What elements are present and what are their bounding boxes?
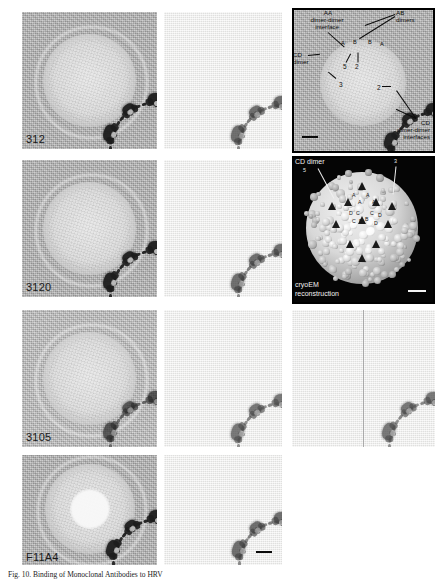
cryoem-cd-dimer-label: CD dimer xyxy=(295,158,325,165)
panel-3120-central-section: 3120 xyxy=(22,160,157,297)
subunit-label-A-right: A xyxy=(380,41,384,47)
subunit-label-A-left: A xyxy=(341,40,345,46)
row-label-3120: 3120 xyxy=(26,281,51,293)
panel-split-line xyxy=(363,310,364,447)
cryoem-subunit-label: A xyxy=(358,199,361,205)
capsid-shell-diff-F11A4 xyxy=(164,455,282,565)
label-ab-dimers-line2: dimers xyxy=(396,17,415,24)
capsid-shell-diff-3120 xyxy=(164,160,282,297)
cryoem-capsomer-knob xyxy=(333,276,338,281)
cryoem-subunit-label: C xyxy=(356,210,360,216)
cryoem-subunit-label: C xyxy=(352,218,356,224)
cryoem-capsomer-knob xyxy=(374,277,382,285)
cryoem-capsomer-knob xyxy=(332,184,339,191)
panel-F11A4-difference-map xyxy=(164,455,282,565)
cryoem-capsomer-knob xyxy=(378,248,385,255)
panel-F11A4-central-section: F11A4 xyxy=(22,455,157,565)
row-label-312: 312 xyxy=(26,133,45,145)
cryoem-capsomer-knob xyxy=(410,216,415,221)
cryoem-axis-5-label: 5 xyxy=(303,167,306,173)
panel-312-central-section: 312 xyxy=(22,12,157,149)
capsid-shell-3105 xyxy=(22,310,157,447)
cryoem-capsomer-knob xyxy=(404,201,409,206)
cryoem-capsomer-knob xyxy=(316,217,321,222)
leader-axis-2-right xyxy=(382,86,391,87)
axis-label-2-fold-top: 2 xyxy=(355,63,359,70)
cryoem-capsomer-knob xyxy=(354,241,360,247)
cryoem-subunit-label: A xyxy=(372,199,375,205)
cryoem-capsomer-knob xyxy=(365,247,372,254)
subunit-label-B-left: B xyxy=(353,39,357,45)
cryoem-capsomer-knob xyxy=(407,232,413,238)
capsid-shell-312 xyxy=(22,12,157,149)
cryoem-capsomer-knob xyxy=(413,235,420,242)
label-cd-dimer-dimer-interfaces-line3: interfaces xyxy=(370,134,430,141)
cryoem-capsomer-knob xyxy=(323,248,330,255)
cryoem-capsomer-knob xyxy=(316,192,320,196)
cryoem-subunit-label: C xyxy=(370,210,374,216)
cryoem-subunit-label: D xyxy=(378,212,382,218)
cryoem-three-fold-canyon xyxy=(388,202,396,210)
cryoem-title-line2: reconstruction xyxy=(295,290,339,297)
label-cd-dimer-line2: dimer xyxy=(293,59,308,66)
cryoem-subunit-label: B xyxy=(365,216,368,222)
panel-3105-difference-map-right xyxy=(292,310,435,447)
cryoem-capsomer-knob xyxy=(315,211,319,215)
cryoem-three-fold-canyon xyxy=(358,182,366,190)
capsid-shell-F11A4 xyxy=(22,455,157,565)
cryoem-capsomer-knob xyxy=(390,254,397,261)
cryoem-capsomer-knob xyxy=(401,227,408,234)
cryoem-capsomer-knob xyxy=(337,175,342,180)
cryoem-subunit-label: A xyxy=(366,192,369,198)
cryoem-capsomer-knob xyxy=(345,268,352,275)
cryoem-capsomer-knob xyxy=(315,236,321,242)
cryoem-three-fold-canyon xyxy=(358,254,366,262)
cryoem-subunit-label: A xyxy=(352,192,355,198)
figure-root: 312 AA dimer-dimer interface AB dimers C… xyxy=(0,0,436,585)
row-label-F11A4: F11A4 xyxy=(26,551,59,563)
cryoem-capsomer-knob xyxy=(389,271,396,278)
cryoem-three-fold-canyon xyxy=(384,220,392,228)
cryoem-subunit-label: B xyxy=(359,218,362,224)
axis-label-3-fold: 3 xyxy=(339,81,343,88)
cryoem-capsomer-knob xyxy=(346,247,354,255)
panel-3105-central-section: 3105 xyxy=(22,310,157,447)
cryoem-capsomer-knob xyxy=(339,248,344,253)
figure-caption: Fig. 10. Binding of Mono­clonal Antibodi… xyxy=(8,570,428,579)
cryoem-capsomer-knob xyxy=(377,257,382,262)
cryoem-title-line1: cryoEM xyxy=(295,281,319,288)
cryoem-axis-3-label: 3 xyxy=(394,158,397,164)
cryoem-three-fold-canyon xyxy=(372,240,380,248)
cryoem-three-fold-canyon xyxy=(344,198,352,206)
cryoem-capsomer-knob xyxy=(407,258,411,262)
capsid-shell-diff-3105 xyxy=(164,310,282,447)
cryoem-capsomer-knob xyxy=(341,212,349,220)
cryoem-capsomer-knob xyxy=(324,230,330,236)
scale-bar-bottom xyxy=(256,551,272,553)
panel-3120-difference-map xyxy=(164,160,282,297)
scale-bar-annotated xyxy=(302,136,318,138)
label-aa-dimer-dimer-interface-line3: interface xyxy=(298,24,356,31)
cryoem-capsomer-knob xyxy=(366,227,375,236)
cryoem-subunit-label: D xyxy=(374,220,378,226)
cryoem-capsomer-knob xyxy=(365,169,372,176)
cryoem-capsomer-knob xyxy=(362,280,369,287)
cryoem-three-fold-canyon xyxy=(332,220,340,228)
capsid-shell-3120 xyxy=(22,160,157,297)
subunit-label-B-right: B xyxy=(368,39,372,45)
cryoem-capsomer-knob xyxy=(332,244,337,249)
cryoem-capsomer-knob xyxy=(396,248,404,256)
scale-bar-cryoem xyxy=(408,290,426,292)
cryoem-capsomer-knob xyxy=(359,269,367,277)
cryoem-capsomer-knob xyxy=(323,262,327,266)
cryoem-subunit-label: D xyxy=(349,210,353,216)
axis-label-2-fold-right: 2 xyxy=(377,84,381,91)
cryoem-capsomer-knob xyxy=(345,170,351,176)
cryoem-capsomer-knob xyxy=(399,262,404,267)
cryoem-capsomer-knob xyxy=(409,222,416,229)
leader-axis-2-top xyxy=(358,53,359,63)
cryoem-capsomer-knob xyxy=(304,211,309,216)
axis-label-5-fold: 5 xyxy=(343,63,347,70)
panel-312-annotated-section: AA dimer-dimer interface AB dimers CD di… xyxy=(292,8,435,153)
capsid-shell-diff-312 xyxy=(164,12,282,149)
